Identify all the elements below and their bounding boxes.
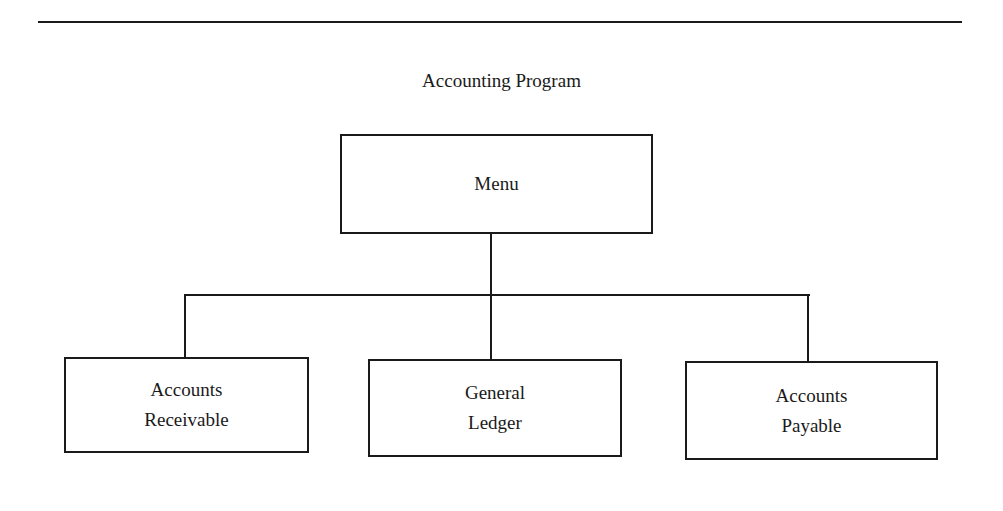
node-accounts-receivable: Accounts Receivable bbox=[64, 357, 309, 453]
connector-to-accounts-payable bbox=[807, 294, 809, 363]
top-divider-rule bbox=[38, 21, 962, 23]
node-general-ledger: General Ledger bbox=[368, 359, 622, 457]
connector-menu-trunk bbox=[490, 233, 492, 296]
node-accounts-payable: Accounts Payable bbox=[685, 361, 938, 460]
connector-horizontal-bus bbox=[184, 294, 810, 296]
node-accounts-payable-label: Accounts Payable bbox=[776, 381, 848, 441]
node-menu: Menu bbox=[340, 134, 653, 234]
node-general-ledger-label: General Ledger bbox=[465, 378, 525, 438]
node-accounts-receivable-label: Accounts Receivable bbox=[144, 375, 228, 435]
connector-to-general-ledger bbox=[490, 294, 492, 361]
diagram-title: Accounting Program bbox=[0, 70, 1003, 92]
connector-to-accounts-receivable bbox=[184, 294, 186, 359]
node-menu-label: Menu bbox=[474, 169, 518, 199]
